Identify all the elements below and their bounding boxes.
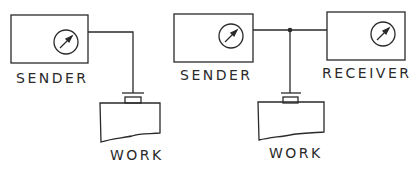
left-sender-label: SENDER [16,71,89,85]
left-electrode-contact [125,97,141,103]
right-receiver-gauge-icon [371,22,395,46]
right-receiver-label: RECEIVER [322,66,411,80]
left-work-label: WORK [110,148,164,162]
right-sender-label: SENDER [180,68,253,82]
right-receiver-box [327,12,405,60]
right-sender-box [174,14,253,62]
left-wire [88,32,133,93]
left-work-block [100,103,160,142]
right-sender-gauge-icon [219,24,243,48]
left-sender-box [11,15,88,63]
left-sender-gauge-icon [54,30,78,54]
right-work-label: WORK [269,146,323,160]
right-junction-dot [288,28,293,33]
right-work-block [258,102,324,140]
